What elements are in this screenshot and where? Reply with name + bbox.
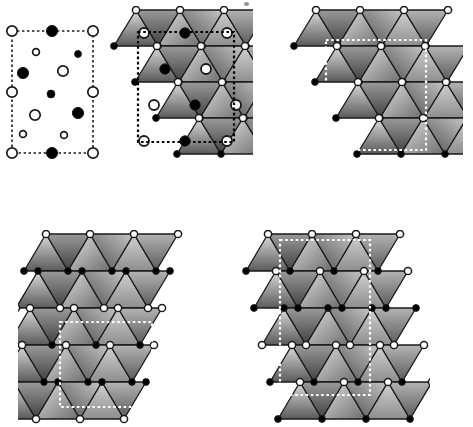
lattice-node-filled [153,115,160,122]
lattice-node-open [264,230,271,237]
lattice-node-filled [281,305,288,312]
lattice-node-filled [251,305,258,312]
lattice-node-open [428,378,435,385]
interstitial-atom-open [201,64,211,74]
lattice-node-open [390,341,397,348]
lattice-node-open [360,267,367,274]
interior-small-filled-1 [75,51,82,58]
lattice-node-open [153,42,160,49]
lattice-node-open [220,6,227,13]
lattice-node-filled [137,342,144,349]
interior-large-open-2 [30,110,40,120]
lattice-node-filled [339,305,346,312]
layer-stacking-variant-1 [108,6,253,174]
lattice-node-open [114,304,121,311]
lattice-node-open [352,230,359,237]
lattice-node-open [258,341,265,348]
lattice-node-open [376,341,383,348]
lattice-node-open [32,415,39,422]
lattice-node-open [302,341,309,348]
lattice-node-filled [41,379,48,386]
lattice-node-filled [111,43,118,50]
edge-atom-top-mid [46,25,57,36]
triangle-tile-group [246,234,432,419]
lattice-node-filled [167,268,174,275]
lattice-node-filled [129,379,136,386]
corner-atom-tr [88,26,98,36]
lattice-node-filled [243,268,250,275]
lattice-node-filled [398,151,405,158]
lattice-node-open [333,42,340,49]
lattice-node-open [420,341,427,348]
interior-large-filled-1 [17,67,28,78]
lattice-node-open [239,114,246,121]
lattice-node-filled [333,115,340,122]
edge-atom-left-mid [7,87,17,97]
lattice-node-filled [295,305,302,312]
lattice-node-open [375,114,382,121]
lattice-node-filled [363,416,370,423]
lattice-node-open [70,304,77,311]
lattice-node-filled [399,379,406,386]
lattice-node-filled [93,342,100,349]
lattice-node-filled [354,151,361,158]
lattice-node-open [444,6,451,13]
lattice-node-open [398,78,405,85]
lattice-node-open [377,42,384,49]
lattice-node-open [144,304,151,311]
lattice-node-open [316,267,323,274]
lattice-node-filled [319,416,326,423]
lattice-node-filled [21,268,28,275]
lattice-node-filled [11,379,18,386]
lattice-node-filled [218,151,225,158]
lattice-node-open [400,6,407,13]
interior-large-filled-2 [72,107,83,118]
lattice-node-open [340,378,347,385]
lattice-node-open [42,230,49,237]
lattice-node-filled [383,305,390,312]
lattice-node-open [86,230,93,237]
lattice-node-open [174,230,181,237]
interstitial-atom-filled [160,64,170,74]
lattice-node-open [132,6,139,13]
lattice-node-open [404,267,411,274]
lattice-node-filled [331,268,338,275]
lattice-node-filled [174,151,181,158]
interior-small-open-1 [33,49,40,56]
lattice-node-open [332,341,339,348]
lattice-node-open [312,6,319,13]
interior-large-open-1 [58,66,68,76]
lattice-node-filled [49,342,56,349]
interior-small-open-3 [61,132,68,139]
lattice-node-filled [99,379,106,386]
lattice-node-open [100,304,107,311]
scan-speck-top [244,2,249,6]
lattice-node-filled [109,268,116,275]
figure-canvas [0,0,473,427]
lattice-node-open [396,230,403,237]
lattice-node-open [296,378,303,385]
edge-atom-bottom-mid [46,147,57,158]
lattice-node-filled [153,268,160,275]
lattice-node-filled [311,379,318,386]
lattice-node-open [442,78,449,85]
edge-atom-right-mid [88,87,98,97]
interstitial-atom-open [231,100,241,110]
lattice-node-filled [123,268,130,275]
lattice-node-filled [79,268,86,275]
lattice-node-open [76,415,83,422]
lattice-node-open [26,304,33,311]
lattice-node-filled [35,268,42,275]
lattice-node-open [106,341,113,348]
lattice-node-filled [85,379,92,386]
lattice-node-open [288,341,295,348]
corner-atom-tl [7,26,17,36]
lattice-node-filled [287,268,294,275]
lattice-node-open [56,304,63,311]
lattice-node-filled [442,151,449,158]
lattice-node-open [218,78,225,85]
lattice-node-open [354,78,361,85]
lattice-node-filled [143,379,150,386]
lattice-node-open [120,415,127,422]
corner-atom-bl [7,148,17,158]
